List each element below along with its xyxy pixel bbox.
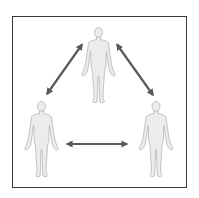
person-top-icon — [82, 28, 115, 103]
diagram-canvas — [0, 0, 199, 198]
person-bottom-left-icon — [25, 102, 58, 177]
arrow-top-to-bottom-left — [47, 45, 82, 95]
person-bottom-right-icon — [139, 102, 172, 177]
arrow-top-to-bottom-right — [117, 45, 153, 96]
